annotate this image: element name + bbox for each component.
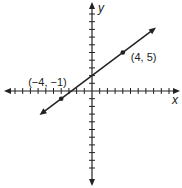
y-axis-arrow-down <box>89 179 95 186</box>
series-line <box>42 29 154 113</box>
y-axis-arrow-up <box>89 2 95 9</box>
x-axis-arrow-left <box>4 88 11 94</box>
data-point <box>121 50 126 55</box>
x-axis-label: x <box>171 93 179 107</box>
y-axis-label: y <box>97 1 105 15</box>
plot-line-group <box>40 28 156 115</box>
data-point-label: (4, 5) <box>131 51 157 63</box>
coordinate-plane: (4, 5)(−4, −1) x y <box>0 0 182 188</box>
data-point <box>59 96 64 101</box>
data-point-label: (−4, −1) <box>28 76 67 88</box>
